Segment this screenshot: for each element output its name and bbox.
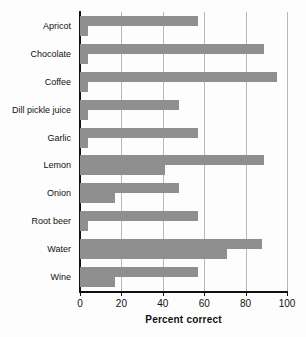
bar — [80, 193, 115, 203]
y-axis-tick-label: Coffee — [45, 77, 71, 87]
bar-group — [80, 263, 287, 291]
bar — [80, 26, 88, 36]
bar — [80, 100, 179, 110]
bar-group — [80, 124, 287, 152]
bar — [80, 183, 179, 193]
y-axis-tick-label: Chocolate — [30, 49, 71, 59]
y-axis-tick-label: Garlic — [47, 133, 71, 143]
y-axis-tick-label: Apricot — [43, 21, 71, 31]
x-axis-tick-labels: 020406080100 — [0, 298, 306, 312]
bar-chart: Apricot Chocolate Coffee Dill pickle jui… — [0, 0, 306, 337]
y-axis-tick-lemon: Lemon — [0, 152, 76, 180]
x-axis-tick — [287, 291, 288, 296]
bar — [80, 277, 115, 287]
bar — [80, 221, 88, 231]
y-axis-tick-dill-pickle-juice: Dill pickle juice — [0, 96, 76, 124]
x-axis-tick — [80, 291, 81, 296]
x-axis-tick-label: 100 — [279, 298, 296, 310]
y-axis-tick-label: Dill pickle juice — [12, 105, 71, 115]
bar-group — [80, 207, 287, 235]
bar — [80, 72, 277, 82]
x-axis-tick — [163, 291, 164, 296]
y-axis-tick-label: Wine — [50, 272, 71, 282]
x-axis-tick — [246, 291, 247, 296]
y-axis-tick-chocolate: Chocolate — [0, 40, 76, 68]
y-axis-tick-label: Onion — [47, 188, 71, 198]
y-axis-tick-onion: Onion — [0, 179, 76, 207]
bar-group — [80, 40, 287, 68]
bar — [80, 110, 88, 120]
y-axis-tick-apricot: Apricot — [0, 12, 76, 40]
y-axis-tick-root-beer: Root beer — [0, 207, 76, 235]
x-axis-tick-label: 80 — [240, 298, 251, 310]
plot-area — [80, 12, 287, 291]
bar — [80, 138, 88, 148]
y-axis-tick-label: Water — [47, 244, 71, 254]
bar-group — [80, 68, 287, 96]
y-axis-tick-water: Water — [0, 235, 76, 263]
bar — [80, 44, 264, 54]
bar — [80, 165, 165, 175]
x-axis-tick — [204, 291, 205, 296]
x-axis-tick-label: 20 — [116, 298, 127, 310]
x-axis-line — [79, 291, 288, 293]
bar-group — [80, 12, 287, 40]
bars-layer — [80, 12, 287, 291]
bar — [80, 54, 88, 64]
y-axis-tick-garlic: Garlic — [0, 124, 76, 152]
y-axis-category-labels: Apricot Chocolate Coffee Dill pickle jui… — [0, 12, 76, 291]
y-axis-tick-label: Root beer — [31, 216, 71, 226]
x-axis-tick-label: 60 — [199, 298, 210, 310]
bar — [80, 267, 198, 277]
bar-group — [80, 96, 287, 124]
x-axis-tick-label: 0 — [77, 298, 83, 310]
bar — [80, 82, 88, 92]
bar — [80, 155, 264, 165]
y-axis-tick-coffee: Coffee — [0, 68, 76, 96]
bar — [80, 239, 262, 249]
bar — [80, 16, 198, 26]
bar — [80, 211, 198, 221]
y-axis-tick-wine: Wine — [0, 263, 76, 291]
x-axis-title: Percent correct — [80, 314, 287, 325]
bar-group — [80, 152, 287, 180]
bar — [80, 128, 198, 138]
y-axis-tick-label: Lemon — [43, 160, 71, 170]
gridline — [287, 12, 288, 291]
bar-group — [80, 235, 287, 263]
bar-group — [80, 179, 287, 207]
x-axis-tick — [121, 291, 122, 296]
x-axis-tick-label: 40 — [157, 298, 168, 310]
bar — [80, 249, 227, 259]
